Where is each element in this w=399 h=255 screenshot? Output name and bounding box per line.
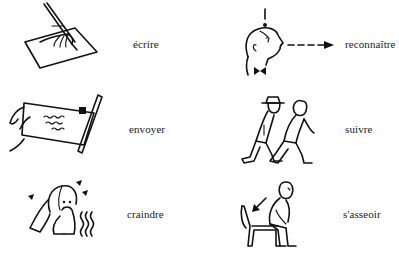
head-recognition-icon: [238, 5, 358, 85]
hand-writing-pen-icon: [20, 0, 120, 80]
vocab-item-envoyer: envoyer: [0, 85, 200, 170]
person-following-icon: [238, 89, 328, 169]
person-sitting-down-icon: [240, 174, 310, 254]
hand-mailing-letter-icon: [4, 89, 114, 169]
verb-label: suivre: [345, 123, 372, 135]
vocab-item-suivre: suivre: [200, 85, 399, 170]
verb-label: reconnaître: [345, 38, 396, 50]
frightened-person-icon: [24, 176, 114, 251]
verb-label: envoyer: [129, 123, 165, 135]
verb-label: écrire: [133, 38, 159, 50]
verb-label: s'asseoir: [343, 208, 381, 220]
vocab-item-craindre: craindre: [0, 170, 200, 255]
vocab-item-reconnaitre: reconnaître: [200, 0, 399, 85]
vocab-item-sasseoir: s'asseoir: [200, 170, 399, 255]
verb-label: craindre: [127, 208, 164, 220]
vocab-item-ecrire: écrire: [0, 0, 200, 85]
